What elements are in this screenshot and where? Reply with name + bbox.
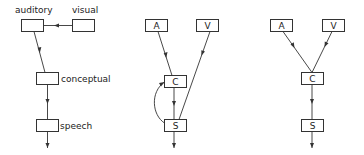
arrowhead-icon [325, 42, 329, 47]
diagram-left: auditory visual conceptual speech [15, 5, 111, 148]
node-conceptual: conceptual [37, 73, 111, 85]
node-speech-label: speech [60, 121, 92, 131]
arrowhead-icon [310, 99, 314, 104]
arrowhead-icon [201, 50, 205, 55]
node-S: S [165, 120, 187, 132]
node-S-label: S [173, 121, 179, 131]
node-V: V [323, 20, 345, 32]
arrowhead-icon [164, 52, 168, 58]
node-speech: speech [37, 120, 93, 132]
arrowhead-icon [38, 47, 42, 53]
node-auditory: auditory [15, 5, 53, 32]
node-C-label: C [172, 77, 178, 87]
node-C: C [165, 76, 187, 88]
edge-S-C-feedback [154, 82, 164, 123]
diagram-canvas: auditory visual conceptual speech A [0, 0, 364, 155]
node-C: C [302, 73, 324, 85]
node-A-label: A [278, 21, 285, 31]
node-visual: visual [72, 5, 98, 32]
node-S-label: S [310, 121, 316, 131]
arrowhead-icon [54, 24, 59, 28]
arrowhead-icon [46, 99, 50, 104]
node-A-label: A [153, 21, 160, 31]
node-auditory-label: auditory [15, 5, 53, 15]
node-V-label: V [204, 21, 211, 31]
arrowhead-icon [310, 143, 314, 148]
arrowhead-icon [172, 143, 176, 148]
node-conceptual-label: conceptual [61, 74, 111, 84]
arrowhead-icon [46, 143, 50, 148]
node-V: V [197, 20, 219, 32]
node-visual-label: visual [72, 5, 98, 15]
node-A: A [271, 20, 293, 32]
arrowhead-icon [172, 101, 176, 106]
node-V-label: V [330, 21, 337, 31]
diagram-right: A V C S [271, 20, 345, 149]
node-A: A [146, 20, 168, 32]
diagram-middle: A V C S [146, 20, 219, 149]
node-S: S [302, 120, 324, 132]
node-C-label: C [309, 74, 315, 84]
edge-A-C [283, 32, 312, 73]
edge-V-C [312, 32, 332, 73]
